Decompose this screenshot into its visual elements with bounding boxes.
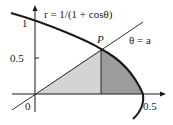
curve-segment-region: [101, 49, 143, 94]
polar-diagram: r = 1/(1 + cosθ) P θ = a 1 0.5 0 0.5: [0, 0, 173, 125]
y-tick-label-1: 1: [22, 17, 28, 29]
x-tick-label-0: 0: [25, 100, 31, 112]
triangle-region: [35, 49, 101, 94]
curve-label: r = 1/(1 + cosθ): [44, 8, 113, 21]
x-axis-arrow-icon: [160, 92, 166, 97]
x-tick-label-0.5: 0.5: [143, 100, 157, 112]
point-label: P: [96, 33, 104, 45]
y-tick-label-0.5: 0.5: [10, 52, 24, 64]
y-axis-arrow-icon: [33, 5, 38, 11]
ray-label: θ = a: [129, 34, 151, 46]
